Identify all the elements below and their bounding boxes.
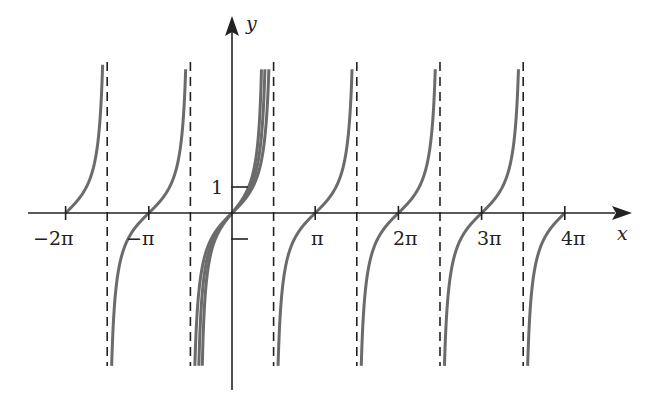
tick-label-3pi: 3π bbox=[477, 227, 502, 249]
x-axis-label: x bbox=[617, 222, 628, 244]
curve bbox=[66, 65, 103, 213]
y-axis-label: y bbox=[245, 12, 257, 34]
tick-label-pi: π bbox=[311, 227, 324, 249]
tick-label-2pi: 2π bbox=[393, 227, 418, 249]
tick-label-4pi: 4π bbox=[561, 227, 586, 249]
curve bbox=[528, 213, 565, 366]
tick-label-neg2pi: −2π bbox=[33, 227, 74, 249]
chart-canvas: x y −2π −π π 2π 3π 4π 1 bbox=[0, 0, 652, 406]
tick-label-1: 1 bbox=[211, 176, 223, 198]
tick-label-negpi: −π bbox=[126, 227, 154, 249]
